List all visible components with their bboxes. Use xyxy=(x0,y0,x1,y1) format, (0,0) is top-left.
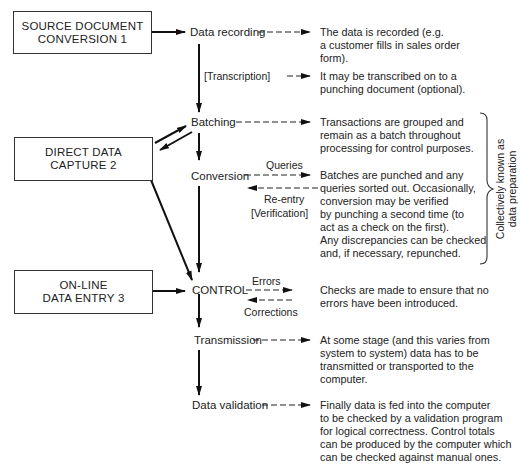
box-title-line: ON-LINE xyxy=(42,279,124,292)
flow-errors: Errors xyxy=(252,275,281,288)
desc-control: Checks are made to ensure that no errors… xyxy=(320,284,489,310)
box-title-line: DIRECT DATA xyxy=(45,146,122,159)
source-document-conversion-box: SOURCE DOCUMENTCONVERSION 1 xyxy=(13,11,152,54)
desc-transmission: At some stage (and this varies from syst… xyxy=(320,334,490,386)
desc-conversion: Batches are punched and any queries sort… xyxy=(320,169,486,260)
desc-transcription: It may be transcribed on to a punching d… xyxy=(320,70,465,96)
flow-corrections: Corrections xyxy=(244,306,298,319)
step-control: CONTROL xyxy=(192,284,248,297)
step-conversion: Conversion xyxy=(191,170,249,183)
desc-recording: The data is recorded (e.g. a customer fi… xyxy=(320,26,460,65)
online-data-entry-box: ON-LINEDATA ENTRY 3 xyxy=(14,270,153,314)
box-title-line: CAPTURE 2 xyxy=(45,159,122,172)
flow-verification: [Verification] xyxy=(251,207,308,220)
brace-label-data-preparation: Collectively known as data preparation xyxy=(494,129,520,249)
step-transmission: Transmission xyxy=(194,334,262,347)
box-title-line: SOURCE DOCUMENT xyxy=(22,20,144,33)
flow-reentry: Re-entry xyxy=(264,193,304,206)
desc-batching: Transactions are grouped and remain as a… xyxy=(320,116,474,155)
step-data-recording: Data recording xyxy=(190,26,265,39)
step-data-validation: Data validation xyxy=(192,399,268,412)
step-transcription: [Transcription] xyxy=(204,70,270,83)
box-title-line: CONVERSION 1 xyxy=(22,33,144,46)
direct-data-capture-box: DIRECT DATACAPTURE 2 xyxy=(14,137,153,181)
flow-queries: Queries xyxy=(266,159,303,172)
desc-validation: Finally data is fed into the computer to… xyxy=(320,399,511,464)
box-title-line: DATA ENTRY 3 xyxy=(42,292,124,305)
step-batching: Batching xyxy=(191,116,236,129)
